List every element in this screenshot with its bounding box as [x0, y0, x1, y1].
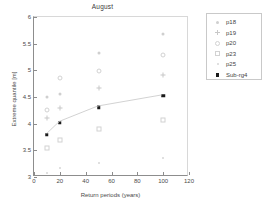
chart-figure: August Extreme quantile [m] Return perio… — [0, 0, 265, 214]
x-tick-mark — [137, 172, 138, 175]
y-tick-mark — [34, 17, 37, 18]
y-tick-label: 5 — [28, 67, 31, 73]
legend-marker-glyph — [217, 63, 219, 65]
legend-item-p25[interactable]: p25 — [207, 59, 261, 70]
x-tick-label: 80 — [134, 178, 141, 184]
legend-marker-glyph — [215, 41, 220, 46]
y-tick-mark — [34, 97, 37, 98]
legend-label: p19 — [224, 30, 236, 36]
x-tick-label: 40 — [82, 178, 89, 184]
sub-rg4-trend-line — [34, 17, 187, 175]
x-tick-mark — [86, 172, 87, 175]
x-tick-mark — [60, 172, 61, 175]
y-tick-label: 4.5 — [23, 94, 31, 100]
x-tick-mark — [34, 172, 35, 175]
x-tick-mark — [112, 172, 113, 175]
chart-title: August — [0, 3, 205, 10]
y-tick-mark — [34, 44, 37, 45]
legend-marker-icon — [211, 19, 224, 26]
legend-item-p20[interactable]: p20 — [207, 38, 261, 49]
legend-marker-icon — [211, 29, 224, 36]
y-tick-label: 4 — [28, 121, 31, 127]
x-tick-label: 0 — [32, 178, 35, 184]
legend-marker-icon — [211, 40, 224, 47]
legend-label: p20 — [224, 40, 236, 46]
x-tick-mark — [163, 172, 164, 175]
legend-label: p23 — [224, 51, 236, 57]
y-axis-label: Extreme quantile [m] — [11, 49, 17, 149]
plot-axes: 33.544.555.56020406080100120 — [33, 16, 188, 176]
legend-marker-glyph — [215, 30, 220, 35]
x-tick-label: 60 — [108, 178, 115, 184]
legend-item-p18[interactable]: p18 — [207, 17, 261, 28]
legend-label: p18 — [224, 19, 236, 25]
legend-label: p25 — [224, 61, 236, 67]
legend-marker-glyph — [215, 51, 220, 56]
legend-marker-icon — [211, 50, 224, 57]
y-tick-mark — [34, 124, 37, 125]
y-tick-label: 3 — [28, 174, 31, 180]
x-tick-label: 20 — [56, 178, 63, 184]
legend-item-p23[interactable]: p23 — [207, 49, 261, 60]
legend-item-sub-rg4[interactable]: Sub-rg4 — [207, 70, 261, 81]
x-tick-label: 120 — [184, 178, 194, 184]
y-tick-label: 3.5 — [23, 147, 31, 153]
legend-label: Sub-rg4 — [224, 72, 247, 78]
x-tick-mark — [189, 172, 190, 175]
legend-marker-icon — [211, 71, 224, 78]
y-tick-mark — [34, 150, 37, 151]
legend-marker-icon — [211, 61, 224, 68]
legend-marker-glyph — [216, 21, 219, 24]
legend-marker-glyph — [216, 73, 220, 77]
y-tick-label: 6 — [28, 14, 31, 20]
x-tick-label: 100 — [158, 178, 168, 184]
legend-item-p19[interactable]: p19 — [207, 28, 261, 39]
y-tick-label: 5.5 — [23, 41, 31, 47]
y-tick-mark — [34, 70, 37, 71]
x-axis-label: Return periods (years) — [33, 192, 188, 198]
chart-legend: p18p19p20p23p25Sub-rg4 — [206, 13, 262, 80]
